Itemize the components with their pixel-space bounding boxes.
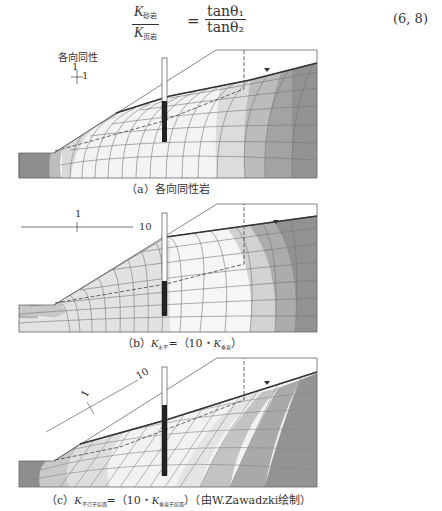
flow-net-horizontal-anisotropy [0, 200, 442, 335]
tangent-ratio: tanθ₁ tanθ₂ [205, 4, 246, 35]
equation-number: (6, 8) [393, 11, 428, 26]
equals-sign: = [187, 12, 200, 30]
k-sandstone: K [134, 4, 143, 19]
k-shale: K [134, 25, 143, 40]
sub-sandstone: 砂岩 [143, 12, 157, 20]
equation-6-8: K砂岩 K页岩 = tanθ₁ tanθ₂ (6, 8) [0, 2, 442, 38]
flow-net-isotropic [0, 40, 442, 180]
caption-a: （a）各向同性岩 [126, 180, 210, 196]
water-level-marker-a [264, 68, 270, 72]
tan-theta-1: tanθ₁ [205, 4, 246, 20]
conductivity-ratio: K砂岩 K页岩 [132, 4, 159, 45]
flow-net-inclined-anisotropy [0, 355, 442, 490]
caption-c: （c）K平行于层面=（10・K垂直于层面）（由W.Zawadzki绘制） [46, 491, 311, 507]
water-level-marker-c [264, 381, 270, 385]
tan-theta-2: tanθ₂ [207, 20, 244, 35]
caption-b: （b）K水平=（10・K垂直） [122, 334, 242, 350]
